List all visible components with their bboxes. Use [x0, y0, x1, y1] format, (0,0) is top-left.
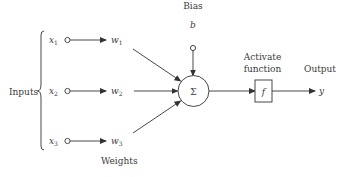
weight-w1: w1 [111, 35, 123, 46]
activate-label-line2: function [244, 64, 282, 74]
weight-arrow-1 [133, 49, 181, 81]
output-symbol: y [318, 86, 325, 96]
weight-w3: w3 [111, 136, 123, 147]
input-node-3 [65, 138, 70, 143]
inputs-brace [38, 31, 45, 150]
sigma-icon: Σ [190, 87, 196, 97]
activate-label-line1: Activate [243, 52, 281, 62]
perceptron-diagram: Bias b Inputs x1 w1 x2 w2 x3 w3 Weights … [0, 0, 343, 177]
input-x3: x3 [49, 136, 58, 147]
input-node-1 [65, 37, 70, 42]
bias-label: Bias [183, 1, 203, 11]
input-x1: x1 [49, 35, 58, 46]
output-label: Output [304, 64, 336, 74]
weights-label: Weights [101, 156, 138, 166]
inputs-label: Inputs [9, 87, 39, 97]
weight-w2: w2 [111, 86, 123, 97]
input-x2: x2 [49, 86, 58, 97]
input-node-2 [65, 88, 70, 93]
bias-symbol: b [190, 20, 196, 30]
weight-arrow-3 [133, 101, 181, 133]
bias-node [190, 45, 195, 50]
